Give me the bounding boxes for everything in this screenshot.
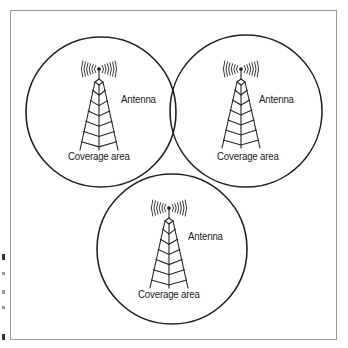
coverage-area-label: Coverage area — [217, 150, 279, 162]
coverage-area-label: Coverage area — [138, 288, 200, 300]
antenna-label: Antenna — [259, 93, 294, 105]
coverage-circle — [170, 35, 322, 187]
antenna-label: Antenna — [121, 93, 156, 105]
radio-tower-icon — [150, 207, 188, 288]
radio-tower-icon — [80, 68, 118, 150]
coverage-area-label: Coverage area — [68, 150, 130, 162]
coverage-diagram: Antenna Coverage area Antenna Coverage a… — [0, 0, 348, 348]
coverage-circle — [26, 37, 176, 187]
antenna-label: Antenna — [188, 230, 223, 242]
radio-tower-icon — [222, 68, 260, 148]
coverage-circle — [97, 174, 247, 324]
